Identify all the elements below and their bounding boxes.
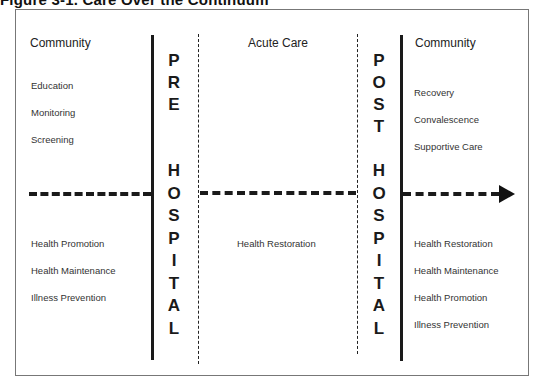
pre-hospital-solid-divider — [151, 35, 154, 360]
post-hospital-dashed-divider — [357, 34, 358, 354]
pre-hospital-dashed-divider — [198, 34, 199, 364]
post-label: P O S T — [369, 50, 389, 138]
right-lower-item: Health Promotion — [414, 292, 487, 303]
hospital-label-pre: H O S P I T A L — [164, 160, 184, 340]
left-community-heading: Community — [30, 36, 91, 50]
post-hospital-solid-divider — [400, 35, 403, 361]
left-lower-item: Illness Prevention — [31, 292, 106, 303]
left-lower-item: Health Promotion — [31, 238, 104, 249]
right-lower-item: Illness Prevention — [414, 319, 489, 330]
timeline-segment-community-right — [403, 192, 499, 196]
figure-title: Figure 3-1. Care Over the Continuum — [0, 0, 269, 8]
hospital-label-post: H O S P I T A L — [369, 160, 389, 340]
left-upper-item: Screening — [31, 134, 74, 145]
arrow-right-icon — [499, 185, 515, 203]
pre-label: P R E — [164, 50, 184, 116]
right-upper-item: Recovery — [414, 87, 454, 98]
right-upper-item: Convalescence — [414, 114, 479, 125]
right-lower-item: Health Maintenance — [414, 265, 499, 276]
left-upper-item: Education — [31, 80, 73, 91]
right-upper-item: Supportive Care — [414, 141, 483, 152]
acute-care-heading: Acute Care — [248, 36, 308, 50]
timeline-segment-acute — [200, 191, 356, 195]
right-community-heading: Community — [415, 36, 476, 50]
middle-lower-item: Health Restoration — [237, 238, 316, 249]
right-lower-item: Health Restoration — [414, 238, 493, 249]
timeline-segment-community-left — [29, 192, 151, 196]
left-upper-item: Monitoring — [31, 107, 75, 118]
left-lower-item: Health Maintenance — [31, 265, 116, 276]
